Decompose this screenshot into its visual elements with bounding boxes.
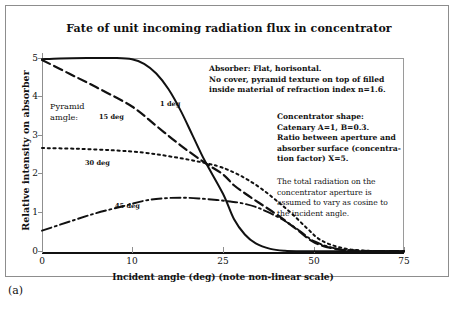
annotation-absorber-note: Absorber: Flat, horisontal. No cover, py… bbox=[209, 64, 404, 96]
concentrator-note-line-5: tion factor) X=5. bbox=[277, 154, 405, 165]
concentrator-note-line-4: absorber surface (concentra- bbox=[277, 144, 405, 155]
legend-heading-line2: amgle: bbox=[50, 112, 78, 123]
legend-heading-line1: Pyramid bbox=[50, 101, 85, 112]
figure-caption: (a) bbox=[8, 284, 23, 297]
absorber-note-line-2: No cover, pyramid texture on top of fill… bbox=[209, 75, 404, 86]
series-label-15-deg: 15 deg bbox=[99, 113, 124, 121]
annotation-concentrator-note: Concentrator shape: Catenary A=1, B=0.3.… bbox=[277, 112, 405, 165]
annotation-radiation-note: The total radiation on the concentrator … bbox=[277, 177, 405, 219]
series-label-30-deg: 30 deg bbox=[85, 159, 110, 167]
radiation-note-line-4: the incident angle. bbox=[277, 209, 405, 220]
concentrator-note-line-2: Catenary A=1, B=0.3. bbox=[277, 123, 405, 134]
absorber-note-line-3: inside material of refraction index n=1.… bbox=[209, 85, 404, 96]
absorber-note-line-1: Absorber: Flat, horisontal. bbox=[209, 64, 404, 75]
radiation-note-line-3: assumed to vary as cosine to bbox=[277, 198, 405, 209]
radiation-note-line-1: The total radiation on the bbox=[277, 177, 405, 188]
figure-container: Fate of unit incoming radiation flux in … bbox=[0, 0, 458, 309]
radiation-note-line-2: concentrator aperture is bbox=[277, 188, 405, 199]
series-label-1-deg: 1 deg bbox=[160, 100, 180, 108]
concentrator-note-line-1: Concentrator shape: bbox=[277, 112, 405, 123]
concentrator-note-line-3: Ratio between aperture and bbox=[277, 133, 405, 144]
series-label-45-deg: 45 deg bbox=[115, 202, 140, 210]
